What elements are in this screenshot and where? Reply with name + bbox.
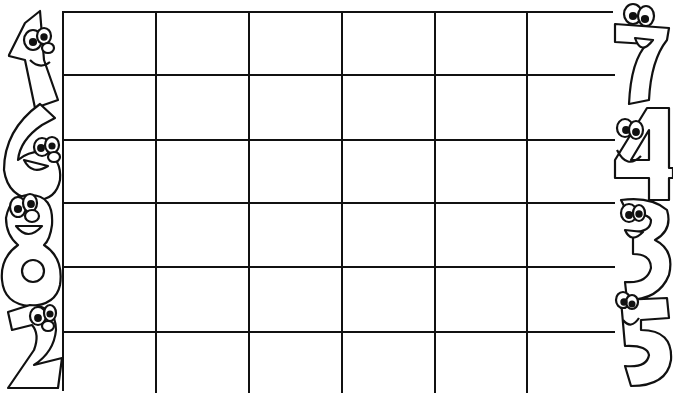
grid-cell[interactable] <box>528 204 615 268</box>
number-six-character-icon <box>4 104 60 200</box>
grid-cell[interactable] <box>64 141 157 204</box>
left-number-characters <box>0 0 64 391</box>
grid-cell[interactable] <box>436 76 528 141</box>
grid-cell[interactable] <box>64 204 157 268</box>
grid-cell[interactable] <box>64 76 157 141</box>
grid-cell[interactable] <box>64 13 157 76</box>
grid-cell[interactable] <box>528 141 615 204</box>
grid-cell[interactable] <box>343 13 436 76</box>
grid-cell[interactable] <box>436 141 528 204</box>
grid-cell[interactable] <box>528 333 615 393</box>
coloring-grid <box>62 11 613 391</box>
number-eight-character-icon <box>2 194 61 306</box>
grid-cell[interactable] <box>528 76 615 141</box>
right-number-characters <box>611 0 673 391</box>
grid-cell[interactable] <box>64 268 157 333</box>
grid-cell[interactable] <box>157 204 250 268</box>
grid-cell[interactable] <box>64 333 157 393</box>
grid-cell[interactable] <box>343 76 436 141</box>
grid-cell[interactable] <box>157 13 250 76</box>
number-one-character-icon <box>9 11 58 108</box>
grid-cell[interactable] <box>250 76 343 141</box>
number-three-character-icon <box>621 199 670 300</box>
number-seven-character-icon <box>615 4 669 104</box>
number-four-character-icon <box>615 108 673 200</box>
number-five-character-icon <box>616 292 671 386</box>
grid-cell[interactable] <box>436 333 528 393</box>
grid-cell[interactable] <box>343 204 436 268</box>
grid-cell[interactable] <box>157 141 250 204</box>
grid-cell[interactable] <box>528 268 615 333</box>
grid-cell[interactable] <box>250 333 343 393</box>
grid-cell[interactable] <box>157 268 250 333</box>
grid-cell[interactable] <box>436 13 528 76</box>
grid-cell[interactable] <box>250 141 343 204</box>
number-two-character-icon <box>8 305 62 388</box>
grid-cell[interactable] <box>250 204 343 268</box>
grid-cell[interactable] <box>250 268 343 333</box>
grid-cell[interactable] <box>157 333 250 393</box>
grid-cell[interactable] <box>157 76 250 141</box>
grid-cell[interactable] <box>528 13 615 76</box>
grid-cell[interactable] <box>436 268 528 333</box>
grid-cell[interactable] <box>343 141 436 204</box>
grid-cell[interactable] <box>436 204 528 268</box>
grid-cell[interactable] <box>250 13 343 76</box>
grid-cell[interactable] <box>343 333 436 393</box>
grid-cell[interactable] <box>343 268 436 333</box>
